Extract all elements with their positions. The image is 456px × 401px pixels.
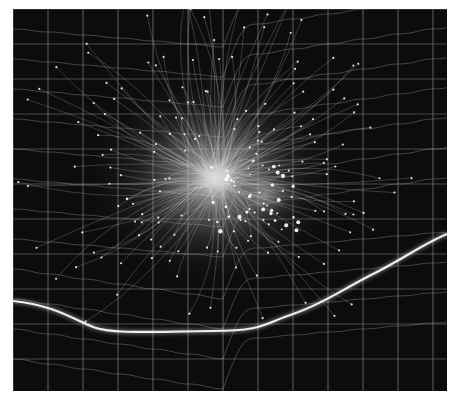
abstract-artwork — [13, 9, 447, 391]
artwork-canvas — [13, 9, 447, 391]
